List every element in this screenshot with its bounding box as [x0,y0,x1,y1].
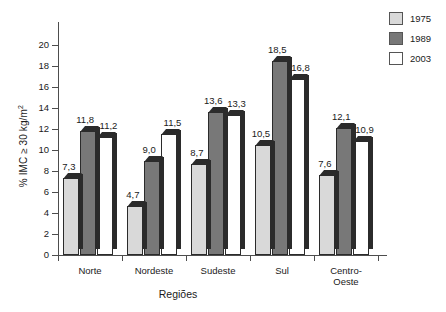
x-axis-tick [122,255,123,261]
legend: 1975 1989 2003 [389,10,431,70]
bar-sul-1975: 10,5 [255,145,271,255]
bar-side-face [159,157,164,250]
bar-value-label: 10,5 [252,128,271,139]
x-axis-category-label: Norte [58,265,122,276]
legend-item-2003: 2003 [389,50,431,66]
y-axis-tick: 8 [52,171,58,172]
bar-value-label: 10,9 [355,124,374,135]
legend-swatch-2003 [389,52,403,65]
y-axis-tick: 10 [52,150,58,151]
bar-side-face [368,137,373,249]
y-axis-tick-label: 4 [44,207,49,218]
bar-centrooeste-1975: 7,6 [319,175,335,255]
y-axis-tick-label: 18 [38,60,49,71]
y-axis-tick: 12 [52,129,58,130]
legend-label-1989: 1989 [410,33,431,44]
bar-value-label: 13,3 [227,98,246,109]
bar-nordeste-1975: 4,7 [127,206,143,255]
legend-item-1989: 1989 [389,30,431,46]
y-axis-tick-label: 16 [38,81,49,92]
y-axis-line [58,22,59,256]
bar-side-face [176,130,181,249]
x-axis-category-label-line: Nordeste [122,265,186,276]
x-axis-title-text: Regiões [159,288,198,300]
bar-norte-1975: 7,3 [63,178,79,255]
x-axis-category-label-line: Norte [58,265,122,276]
bar-value-label: 7,6 [318,158,331,169]
legend-label-1975: 1975 [410,13,431,24]
bar-sudeste-1975: 8,7 [191,164,207,255]
x-axis-tick [186,255,187,261]
y-axis-tick: 20 [52,45,58,46]
y-axis-tick: 16 [52,87,58,88]
chart-container: % IMC ≥ 30 kg/m2 02468101214161820 7,311… [0,0,446,312]
x-axis-category-label-line: Sudeste [186,265,250,276]
bar-side-face [351,124,356,249]
bar-side-face [334,171,339,249]
y-axis-tick: 2 [52,234,58,235]
bar-side-face [95,127,100,249]
x-axis-tick [378,255,379,261]
bar-side-face [304,75,309,249]
bar-side-face [78,174,83,249]
bar-value-label: 13,6 [204,95,223,106]
y-axis-tick: 18 [52,66,58,67]
bar-side-face [112,133,117,249]
x-axis-category-label: Sul [250,265,314,276]
x-axis-category-label: Sudeste [186,265,250,276]
bar-value-label: 18,5 [268,44,287,55]
y-axis-tick-label: 2 [44,228,49,239]
y-axis-tick: 14 [52,108,58,109]
bar-side-face [270,141,275,249]
y-axis-tick-label: 0 [44,249,49,260]
y-axis-tick-label: 8 [44,165,49,176]
y-axis-tick-label: 20 [38,39,49,50]
y-axis-tick: 6 [52,192,58,193]
x-axis-tick [250,255,251,261]
x-axis-tick [314,255,315,261]
y-axis-title: % IMC ≥ 30 kg/m2 [17,56,29,236]
y-axis-tick-label: 14 [38,102,49,113]
legend-swatch-1989 [389,32,403,45]
y-axis-title-exponent: 2 [17,105,24,109]
bar-value-label: 9,0 [143,144,156,155]
x-axis-category-label-line: Centro- [314,265,378,276]
x-axis-category-label: Nordeste [122,265,186,276]
legend-label-2003: 2003 [410,53,431,64]
y-axis-tick-label: 10 [38,144,49,155]
bar-side-face [223,108,228,249]
bar-value-label: 12,1 [332,111,351,122]
legend-swatch-1975 [389,12,403,25]
y-axis-tick-label: 12 [38,123,49,134]
x-axis-category-label-line: Oeste [314,276,378,287]
bar-side-face [206,160,211,249]
y-axis-tick: 4 [52,213,58,214]
y-axis-tick-label: 6 [44,186,49,197]
x-axis-category-label: Centro-Oeste [314,265,378,287]
y-axis-title-text: % IMC ≥ 30 kg/m [18,109,29,187]
x-axis-tick [58,255,59,261]
bar-value-label: 11,8 [76,114,94,125]
bar-value-label: 11,5 [164,117,182,128]
bar-side-face [142,202,147,249]
bar-value-label: 11,2 [100,120,118,131]
bar-value-label: 8,7 [190,147,203,158]
bar-side-face [287,57,292,249]
bar-value-label: 7,3 [62,161,75,172]
bar-value-label: 16,8 [291,62,310,73]
legend-item-1975: 1975 [389,10,431,26]
x-axis-category-label-line: Sul [250,265,314,276]
x-axis-title: Regiões [0,288,446,300]
bar-side-face [240,111,245,249]
x-axis-line [58,255,387,256]
bar-value-label: 4,7 [126,189,139,200]
